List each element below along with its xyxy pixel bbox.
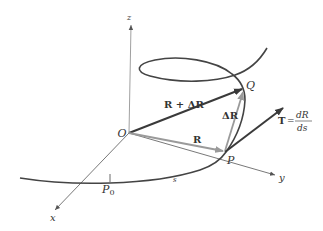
r-plus-delta-r-label: R + ΔR (164, 99, 204, 110)
space-curve-diagram: z y x O Q P P0 s R + ΔR ΔR R T = dR ds (0, 0, 323, 231)
y-axis-label: y (278, 172, 285, 183)
tangent-num-text: dR (296, 110, 309, 120)
vector-r (129, 133, 223, 151)
tangent-numerator: dR (296, 110, 309, 120)
p0-subscript: 0 (109, 188, 114, 197)
r-label: R (193, 134, 202, 145)
vector-delta-r (225, 92, 243, 151)
delta-r-label: ΔR (222, 110, 239, 121)
arc-length-label: s (173, 176, 177, 184)
x-axis (55, 133, 129, 210)
point-q-label: Q (246, 79, 255, 92)
point-p-label: P (226, 154, 235, 167)
origin-label: O (117, 127, 126, 140)
x-axis-label: x (50, 212, 56, 223)
z-axis (129, 25, 131, 133)
tangent-denominator: ds (297, 123, 308, 133)
tangent-equals: = (287, 116, 295, 126)
z-axis-label: z (126, 13, 132, 22)
point-p0-label: P0 (101, 183, 115, 197)
tangent-t-label: T (278, 115, 286, 126)
